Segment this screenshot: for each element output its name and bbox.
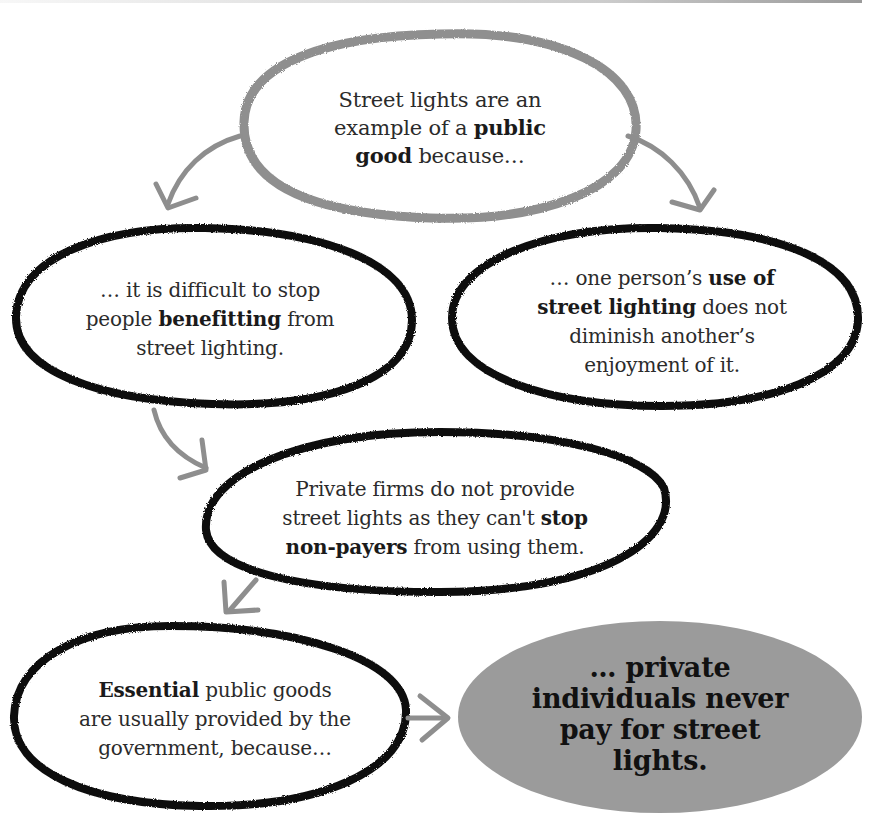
node-right-text: … one person’s use of street lighting do… bbox=[492, 264, 832, 380]
node-left-line-2b: from bbox=[281, 307, 334, 331]
node-middle-line-2a: street lights as they can't bbox=[282, 506, 540, 530]
node-bottom-left-line-2: are usually provided by the bbox=[79, 707, 351, 731]
node-top-line-1: Street lights are an bbox=[339, 88, 542, 112]
node-top-line-3: because… bbox=[412, 144, 525, 168]
node-top-bold-public: public bbox=[474, 115, 546, 140]
node-right-line-3: diminish another’s bbox=[569, 324, 755, 348]
node-left-line-1: … it is difficult to stop bbox=[100, 278, 320, 302]
node-middle-bold-non-payers: non-payers bbox=[286, 535, 408, 559]
node-middle-line-3b: from using them. bbox=[407, 535, 584, 559]
node-right-line-1a: … one person’s bbox=[549, 266, 708, 290]
node-left-line-2a: people bbox=[86, 307, 159, 331]
node-middle-line-1: Private firms do not provide bbox=[295, 477, 574, 501]
node-bottom-right-line-4: lights. bbox=[613, 745, 708, 776]
node-bottom-right-text: … private individuals never pay for stre… bbox=[480, 652, 840, 776]
node-bottom-left-line-3: government, because… bbox=[98, 736, 332, 760]
node-middle-bold-stop: stop bbox=[541, 506, 588, 530]
node-bottom-left-line-1b: public goods bbox=[199, 678, 332, 702]
node-bottom-right-line-1: … private bbox=[590, 652, 731, 683]
node-top-line-2: example of a bbox=[334, 116, 474, 140]
node-top-text: Street lights are an example of a public… bbox=[300, 86, 580, 170]
node-right-bold-street-lighting: street lighting bbox=[537, 295, 696, 319]
node-bottom-left-bold-essential: Essential bbox=[98, 678, 199, 702]
node-left-bold-benefitting: benefitting bbox=[158, 307, 281, 331]
node-middle-text: Private firms do not provide street ligh… bbox=[245, 475, 625, 562]
node-right-line-2b: does not bbox=[696, 295, 787, 319]
curved-arrow-left-to-middle-icon bbox=[154, 410, 206, 478]
curved-arrow-down-left-icon bbox=[156, 136, 240, 208]
node-bottom-left-text: Essential public goods are usually provi… bbox=[45, 676, 385, 763]
node-bottom-right-line-2: individuals never bbox=[532, 683, 788, 714]
node-top-bold-good: good bbox=[355, 143, 412, 168]
node-right-line-4: enjoyment of it. bbox=[584, 353, 740, 377]
arrow-right-icon bbox=[408, 696, 448, 740]
curved-arrow-down-right-icon bbox=[628, 136, 714, 210]
node-left-text: … it is difficult to stop people benefit… bbox=[60, 276, 360, 363]
arrow-down-left-icon bbox=[224, 580, 258, 612]
node-right-bold-use-of: use of bbox=[708, 266, 774, 290]
node-bottom-right-line-3: pay for street bbox=[560, 714, 761, 745]
node-left-line-3: street lighting. bbox=[136, 336, 284, 360]
